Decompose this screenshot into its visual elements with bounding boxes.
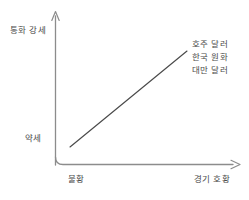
x-axis-left-label: 불황 xyxy=(68,174,84,185)
legend-item-twd: 대만 달러 xyxy=(192,65,228,76)
x-axis-right-label: 경기 호황 xyxy=(194,174,230,185)
legend-item-aud: 호주 달러 xyxy=(192,39,228,50)
series-annotation-list: 호주 달러 한국 원화 대만 달러 xyxy=(192,39,228,76)
legend-item-krw: 한국 원화 xyxy=(192,52,228,63)
trend-line-series xyxy=(70,51,187,147)
y-axis-top-label: 통화 강세 xyxy=(10,25,46,36)
x-axis-line xyxy=(56,157,234,165)
currency-vs-economy-chart: 통화 강세 약세 불황 경기 호황 호주 달러 한국 원화 대만 달러 xyxy=(0,0,249,200)
y-axis-bottom-label: 약세 xyxy=(25,133,41,144)
